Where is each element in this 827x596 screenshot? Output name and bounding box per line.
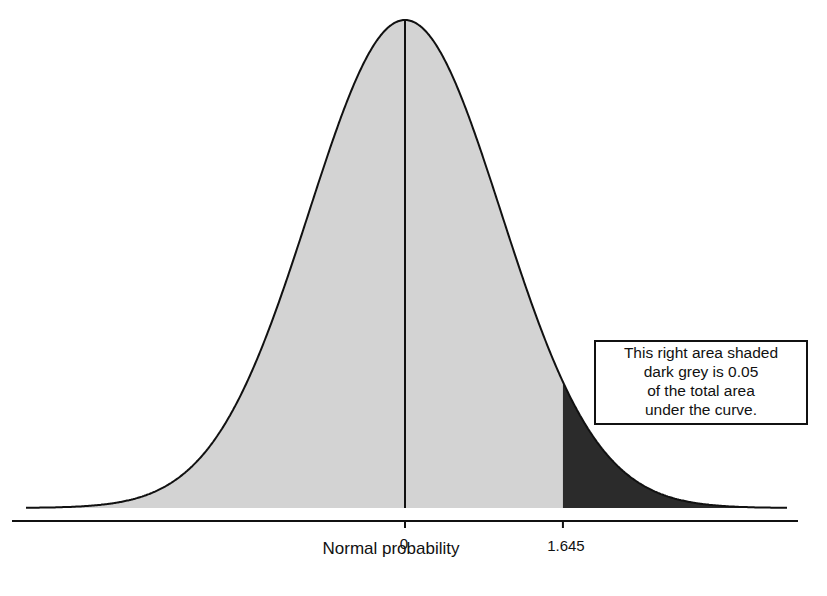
annotation-box: This right area shaded dark grey is 0.05… bbox=[594, 340, 808, 425]
x-axis-ticks bbox=[405, 521, 563, 528]
annotation-line: dark grey is 0.05 bbox=[596, 362, 806, 381]
x-axis-title: Normal probability bbox=[323, 539, 460, 559]
light-grey-area bbox=[26, 20, 563, 508]
annotation-line: of the total area bbox=[596, 381, 806, 400]
x-tick-label: 1.645 bbox=[547, 537, 585, 554]
annotation-line: under the curve. bbox=[596, 400, 806, 419]
normal-distribution-chart bbox=[0, 0, 827, 596]
annotation-line: This right area shaded bbox=[596, 343, 806, 362]
